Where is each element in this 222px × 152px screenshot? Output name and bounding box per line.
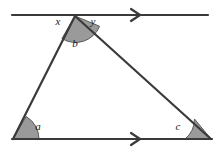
triangle-left-side xyxy=(13,16,75,139)
angle-label-y: y xyxy=(90,15,96,27)
bottom-base-line xyxy=(12,133,212,145)
angle-label-b: b xyxy=(72,37,78,49)
geometry-canvas: x y b a c xyxy=(0,0,222,152)
triangle-sides xyxy=(13,16,211,139)
angle-label-x: x xyxy=(55,15,61,27)
angle-label-a: a xyxy=(35,120,41,132)
top-parallel-line xyxy=(12,9,208,21)
angle-sectors xyxy=(13,16,211,139)
angle-labels: x y b a c xyxy=(35,15,180,132)
geometry-diagram: x y b a c xyxy=(0,0,222,152)
triangle-right-side xyxy=(75,16,211,139)
angle-label-c: c xyxy=(176,120,181,132)
